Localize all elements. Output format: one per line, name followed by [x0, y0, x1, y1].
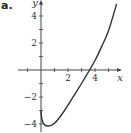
- y-tick-label: −2: [24, 92, 37, 102]
- y-tick-label: 4: [31, 11, 37, 21]
- x-tick-label: 2: [65, 73, 71, 83]
- x-axis-label: x: [117, 72, 123, 83]
- axes: 24−4−224xy: [18, 0, 123, 132]
- function-curve: [41, 4, 117, 126]
- y-axis-label: y: [31, 0, 38, 8]
- y-tick-label: 2: [31, 38, 37, 48]
- y-axis-arrow-icon: [39, 0, 43, 5]
- x-tick-label: 4: [92, 73, 98, 83]
- function-plot: 24−4−224xy: [0, 0, 131, 133]
- y-tick-label: −4: [24, 119, 38, 129]
